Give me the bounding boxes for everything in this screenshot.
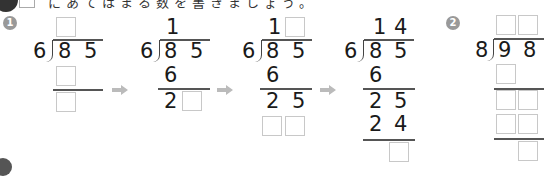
dividend-tens: 8: [266, 40, 279, 62]
subtraction-line: [53, 89, 103, 91]
dividend-tens: 8: [164, 40, 177, 62]
dividend-ones: 5: [84, 40, 97, 62]
quotient-ones: 4: [394, 16, 407, 38]
dividend-ones: 5: [190, 40, 203, 62]
dividend-ones: 8: [523, 39, 536, 61]
product-box[interactable]: [56, 66, 76, 86]
next-section-badge: [0, 158, 12, 176]
final-remainder-box[interactable]: [389, 142, 409, 162]
product-1: 6: [164, 64, 177, 86]
remainder-tens: 2: [164, 90, 177, 112]
instruction-text: にあてはまる数を書きましょう。: [48, 0, 317, 11]
division-bracket: [46, 40, 53, 62]
product-1-box[interactable]: [496, 64, 516, 84]
product-1: 6: [369, 64, 382, 86]
section-badge: [0, 0, 18, 12]
divisor: 6: [140, 40, 153, 62]
dividend-tens: 8: [58, 40, 71, 62]
quotient-tens: 1: [268, 16, 281, 38]
dividend-ones: 5: [394, 40, 407, 62]
answer-box-legend: [19, 0, 35, 8]
divisor: 6: [242, 40, 255, 62]
divisor: 6: [344, 40, 357, 62]
division-bracket: [357, 40, 364, 62]
final-remainder-box[interactable]: [518, 141, 538, 161]
dividend-tens: 8: [369, 40, 382, 62]
quotient-tens-box[interactable]: [496, 15, 516, 35]
division-bracket: [255, 40, 262, 62]
subtraction-line-2: [494, 138, 544, 140]
product-2-tens: 2: [369, 113, 382, 135]
arrow-right-icon: [320, 85, 336, 95]
product-1: 6: [266, 64, 279, 86]
divisor: 6: [33, 40, 46, 62]
remainder-tens: 2: [369, 90, 382, 112]
product-2-ones-box[interactable]: [285, 116, 305, 136]
remainder-ones: 5: [292, 90, 305, 112]
dividend-tens: 9: [498, 39, 511, 61]
quotient-tens-box[interactable]: [56, 17, 76, 37]
remainder-ones-box[interactable]: [518, 90, 538, 110]
problem-2-badge: 2: [446, 16, 460, 30]
remainder-tens-box[interactable]: [496, 90, 516, 110]
remainder-tens: 2: [266, 90, 279, 112]
quotient-tens: 1: [166, 16, 179, 38]
dividend-ones: 5: [292, 40, 305, 62]
product-2-ones: 4: [394, 113, 407, 135]
product-2-tens-box[interactable]: [262, 116, 282, 136]
problem-1-badge: 1: [3, 16, 17, 30]
division-bracket: [487, 39, 494, 61]
product-2-ones-box[interactable]: [518, 114, 538, 134]
arrow-right-icon: [217, 85, 233, 95]
bring-down-box[interactable]: [182, 91, 202, 111]
remainder-box[interactable]: [56, 92, 76, 112]
subtraction-line-2: [363, 139, 415, 141]
quotient-ones-box[interactable]: [518, 15, 538, 35]
remainder-ones: 5: [394, 90, 407, 112]
quotient-ones-box[interactable]: [285, 17, 305, 37]
product-2-tens-box[interactable]: [496, 114, 516, 134]
quotient-tens: 1: [373, 16, 386, 38]
division-bracket: [153, 40, 160, 62]
arrow-right-icon: [112, 85, 128, 95]
